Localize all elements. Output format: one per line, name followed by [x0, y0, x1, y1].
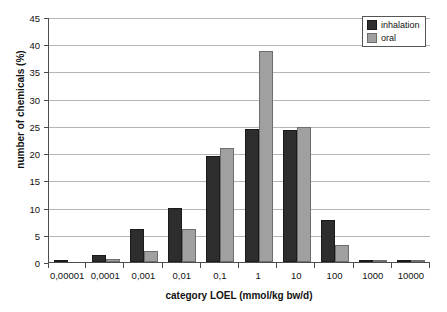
bar-group: [87, 18, 125, 262]
bar-inhalation: [321, 220, 335, 262]
x-axis-tick-label: 0,1: [201, 270, 239, 286]
bar-group: [278, 18, 316, 262]
x-axis-tick-label: 0,0001: [86, 270, 124, 286]
plot-area: [48, 18, 430, 263]
x-axis-title: category LOEL (mmol/kg bw/d): [48, 290, 430, 301]
x-axis-tick: [201, 263, 239, 269]
bar-oral: [144, 251, 158, 262]
bar-group: [163, 18, 201, 262]
bar-oral: [259, 51, 273, 262]
x-axis-tick: [48, 263, 86, 269]
legend-swatch-icon-oral: [367, 33, 377, 43]
bar-oral: [182, 229, 196, 262]
bar-inhalation: [283, 130, 297, 262]
x-axis-tick: [354, 263, 392, 269]
x-axis-tick: [315, 263, 353, 269]
bar-group: [392, 18, 430, 262]
bar-inhalation: [206, 156, 220, 262]
x-axis-tick-label: 0,00001: [48, 270, 86, 286]
bar-inhalation: [130, 229, 144, 262]
x-axis-tick: [124, 263, 162, 269]
legend-item-oral: oral: [367, 33, 420, 43]
bar-group: [125, 18, 163, 262]
x-axis-tick-label: 10: [277, 270, 315, 286]
x-axis-tick-label: 1: [239, 270, 277, 286]
x-axis-tick-label: 1000: [354, 270, 392, 286]
bar-group: [49, 18, 87, 262]
bar-oral: [297, 127, 311, 262]
x-axis-tick-labels: 0,000010,00010,0010,010,1110100100010000: [48, 270, 430, 286]
x-axis-tick-label: 10000: [392, 270, 430, 286]
x-axis-tick: [392, 263, 430, 269]
y-axis-tick-label: 25: [10, 121, 40, 132]
legend: inhalation oral: [362, 16, 426, 47]
x-axis-tick-label: 0,001: [124, 270, 162, 286]
y-axis-tick-label: 35: [10, 67, 40, 78]
bar-inhalation: [397, 260, 411, 262]
y-axis-tick-label: 0: [10, 258, 40, 269]
legend-swatch-icon-inhalation: [367, 20, 377, 30]
y-axis-tick-label: 30: [10, 94, 40, 105]
bar-groups: [49, 18, 430, 262]
x-axis-tick: [163, 263, 201, 269]
chart-figure: number of chemicals (%) 0510152025303540…: [0, 0, 447, 312]
bar-group: [239, 18, 277, 262]
x-axis-ticks: [48, 263, 430, 269]
y-axis-tick-label: 40: [10, 40, 40, 51]
bar-oral: [335, 245, 349, 262]
bar-group: [316, 18, 354, 262]
y-axis-tick-label: 15: [10, 176, 40, 187]
y-axis-tick-labels: 051015202530354045: [0, 0, 48, 312]
legend-item-inhalation: inhalation: [367, 20, 420, 30]
bar-oral: [106, 259, 120, 262]
bar-oral: [220, 148, 234, 262]
bar-group: [354, 18, 392, 262]
legend-label-oral: oral: [381, 33, 396, 43]
x-axis-tick: [239, 263, 277, 269]
legend-label-inhalation: inhalation: [381, 20, 420, 30]
bar-inhalation: [92, 255, 106, 262]
bar-inhalation: [359, 260, 373, 262]
bar-oral: [373, 260, 387, 262]
y-axis-tick-label: 10: [10, 203, 40, 214]
x-axis-tick: [86, 263, 124, 269]
bar-inhalation: [245, 129, 259, 262]
y-axis-tick-label: 5: [10, 230, 40, 241]
bar-inhalation: [54, 260, 68, 262]
bar-inhalation: [168, 208, 182, 262]
x-axis-tick-label: 0,01: [163, 270, 201, 286]
y-axis-tick-label: 20: [10, 149, 40, 160]
x-axis-tick-label: 100: [315, 270, 353, 286]
x-axis-tick: [277, 263, 315, 269]
y-axis-tick-label: 45: [10, 13, 40, 24]
bar-group: [201, 18, 239, 262]
bar-oral: [411, 260, 425, 262]
